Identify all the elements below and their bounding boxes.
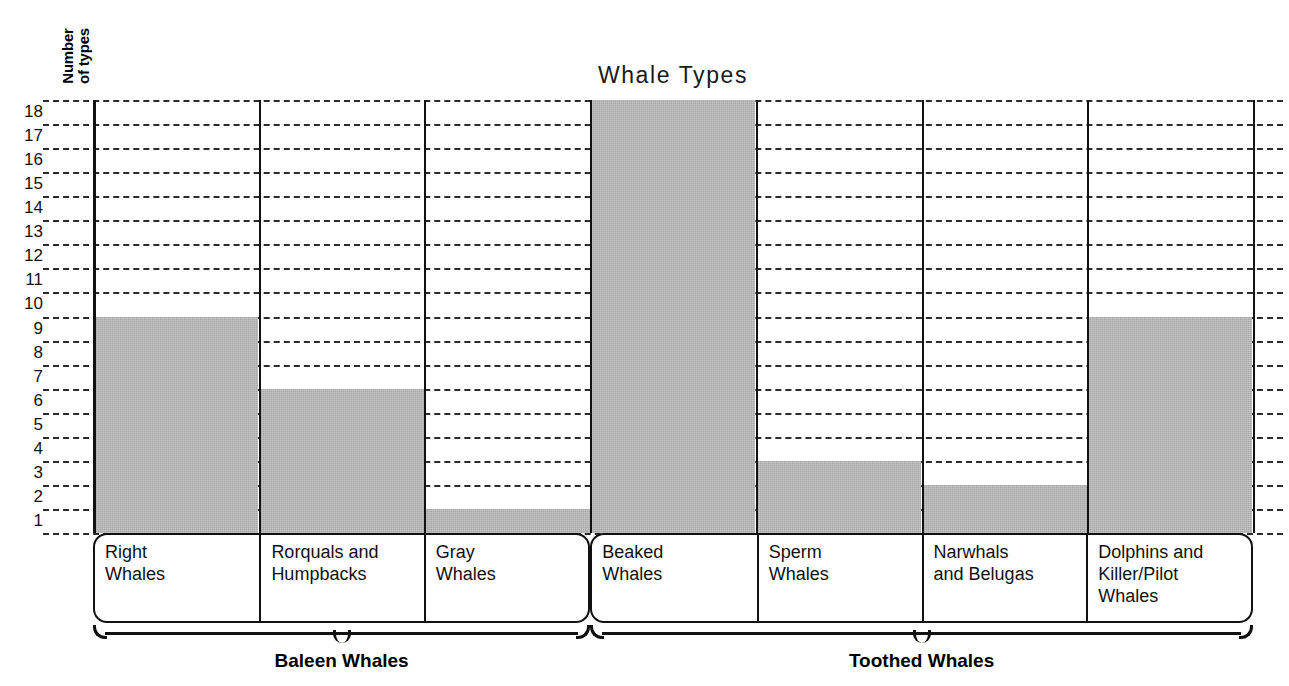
y-axis-tick-label: 11 [0,271,43,288]
category-label: Sperm Whales [757,535,922,621]
brace-right-tip [576,625,590,639]
y-axis-tick-label: 14 [0,199,43,216]
bar [1089,317,1253,534]
y-axis-tick-label: 10 [0,295,43,312]
y-axis-tick-label: 2 [0,488,43,505]
bar [757,461,921,533]
column-divider [259,100,261,533]
bar [592,100,756,533]
y-axis-tick-label: 4 [0,440,43,457]
column-divider [756,100,758,533]
plot-area: 181716151413121110987654321 [93,100,1253,533]
category-label: Dolphins and Killer/Pilot Whales [1086,535,1251,621]
column-divider [590,100,592,533]
category-label-box: Right WhalesRorquals and HumpbacksGray W… [93,533,590,623]
group-brace [590,625,1253,641]
group-label: Toothed Whales [590,650,1253,672]
y-axis-tick-label: 12 [0,247,43,264]
brace-center-point [333,630,351,643]
column-divider [1087,100,1089,533]
bar [923,485,1087,533]
y-axis-tick-label: 16 [0,151,43,168]
y-axis-tick-label: 5 [0,416,43,433]
page-title: Whale Types [93,62,1253,89]
bar [260,389,424,533]
y-axis-tick-label: 17 [0,127,43,144]
y-axis-tick-label: 7 [0,368,43,385]
column-divider [1253,100,1255,533]
group-label: Baleen Whales [93,650,590,672]
y-axis-tick-label: 18 [0,103,43,120]
category-label: Rorquals and Humpbacks [259,535,423,621]
category-label: Gray Whales [424,535,588,621]
brace-right-tip [1239,625,1253,639]
column-divider [922,100,924,533]
y-axis-tick-label: 3 [0,464,43,481]
y-axis-line [93,100,96,533]
bar [426,509,590,533]
whale-types-bar-chart: Number of types Whale Types 181716151413… [0,0,1289,686]
category-label-row: Right WhalesRorquals and HumpbacksGray W… [93,533,1253,623]
y-axis-tick-label: 1 [0,512,43,529]
bar [95,317,259,534]
y-axis-title-text: Number of types [60,28,92,84]
category-label-box: Beaked WhalesSperm WhalesNarwhals and Be… [590,533,1253,623]
column-divider [424,100,426,533]
y-axis-tick-label: 9 [0,320,43,337]
brace-center-point [913,630,931,643]
y-axis-tick-label: 8 [0,344,43,361]
category-label: Beaked Whales [592,535,757,621]
y-axis-tick-label: 15 [0,175,43,192]
y-axis-tick-label: 13 [0,223,43,240]
category-label: Right Whales [95,535,259,621]
group-brace [93,625,590,641]
category-label: Narwhals and Belugas [922,535,1087,621]
y-axis-tick-label: 6 [0,392,43,409]
